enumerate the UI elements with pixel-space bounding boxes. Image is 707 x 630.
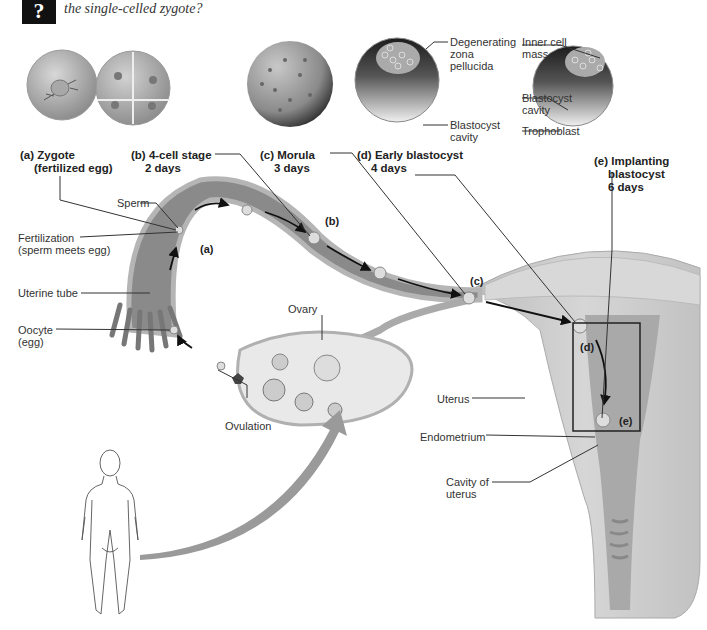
path-tag-d: (d): [580, 341, 594, 353]
stage-title: (c) Morula: [260, 149, 315, 161]
label-oocyte: Oocyte (egg): [18, 324, 53, 348]
label-degenerating-zona-pellucida: Degenerating zona pellucida: [450, 36, 516, 72]
stage-subtitle: 2 days: [131, 162, 212, 175]
morula-illustration: [247, 41, 333, 127]
stage-label-zygote: (a) Zygote (fertilized egg): [20, 149, 113, 175]
label-fertilization: Fertilization (sperm meets egg): [18, 232, 110, 256]
path-tag-b: (b): [325, 215, 339, 227]
stage-subtitle: 6 days: [594, 181, 669, 194]
label-trophoblast: Trophoblast: [522, 125, 580, 137]
label-sperm: Sperm: [117, 197, 149, 209]
stage-title: (d) Early blastocyst: [357, 149, 463, 161]
uterine-tube-illustration: [112, 179, 480, 350]
zygote-illustration: [27, 50, 97, 120]
diagram-artwork: [0, 0, 707, 630]
stage-label-early-blastocyst: (d) Early blastocyst 4 days: [357, 149, 463, 175]
path-tag-e: (e): [619, 415, 632, 427]
stage-subtitle: 3 days: [260, 162, 315, 175]
ovary-illustration: [217, 332, 412, 425]
body-outline: [82, 450, 138, 614]
path-tag-a: (a): [200, 243, 213, 255]
stage-label-4-cell: (b) 4-cell stage 2 days: [131, 149, 212, 175]
label-blastocyst-cavity-d: Blastocyst cavity: [450, 119, 500, 143]
path-tag-c: (c): [470, 275, 483, 287]
stage-subtitle: blastocyst: [594, 168, 669, 181]
label-ovulation: Ovulation: [225, 420, 271, 432]
stage-subtitle: 4 days: [357, 162, 463, 175]
early-blastocyst-illustration: [355, 38, 439, 122]
label-blastocyst-cavity-e: Blastocyst cavity: [522, 92, 572, 116]
label-uterine-tube: Uterine tube: [18, 287, 78, 299]
label-cavity-of-uterus: Cavity of uterus: [446, 476, 489, 500]
stage-label-implanting-blastocyst: (e) Implanting blastocyst 6 days: [594, 155, 669, 194]
stage-subtitle: (fertilized egg): [20, 162, 113, 175]
four-cell-illustration: [96, 51, 170, 125]
label-uterus: Uterus: [437, 393, 469, 405]
label-ovary: Ovary: [288, 303, 317, 315]
stage-title: (a) Zygote: [20, 149, 75, 161]
stage-title: (b) 4-cell stage: [131, 149, 212, 161]
label-endometrium: Endometrium: [420, 431, 485, 443]
stage-title: (e) Implanting: [594, 155, 669, 167]
locator-arrow: [140, 410, 347, 560]
label-inner-cell-mass: Inner cell mass: [522, 36, 567, 60]
stage-label-morula: (c) Morula 3 days: [260, 149, 315, 175]
